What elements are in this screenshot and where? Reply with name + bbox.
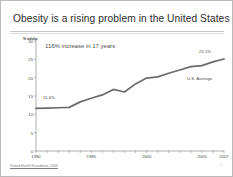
x-axis-tick-label: 2007 bbox=[219, 154, 228, 159]
x-axis-tick-label: 2005 bbox=[197, 154, 206, 159]
series-label: U.S. Average bbox=[187, 76, 212, 81]
y-axis-ticks: 051015202530 bbox=[17, 35, 33, 160]
slide-content: Obesity is a rising problem in the Unite… bbox=[5, 5, 230, 174]
y-axis-tick-label: 10 bbox=[19, 112, 33, 117]
y-axis-tick-label: 15 bbox=[19, 94, 33, 99]
y-axis-tick-label: 25 bbox=[19, 57, 33, 62]
y-axis-tick-label: 5 bbox=[19, 130, 33, 135]
source-link[interactable]: United Health Foundation, 2008 bbox=[10, 164, 58, 168]
x-axis-tick-label: 1995 bbox=[87, 154, 96, 159]
y-axis-tick-label: 0 bbox=[19, 149, 33, 154]
start-value-label: 11.6% bbox=[43, 95, 55, 100]
slide-canvas: Obesity is a rising problem in the Unite… bbox=[0, 0, 233, 177]
y-axis-tick-label: 20 bbox=[19, 75, 33, 80]
page-number: 7 bbox=[220, 164, 222, 168]
y-axis-tick-label: 30 bbox=[19, 39, 33, 44]
end-value-label: 25.1% bbox=[199, 49, 211, 54]
chart-plot-area bbox=[5, 35, 230, 160]
x-axis-tick-label: 2000 bbox=[142, 154, 151, 159]
title-divider bbox=[10, 31, 224, 32]
data-series-line bbox=[36, 59, 224, 109]
increase-annotation: 116% increase in 17 years bbox=[45, 43, 115, 49]
title-divider-shadow bbox=[10, 33, 224, 34]
x-axis-tick-label: 1990 bbox=[31, 154, 40, 159]
page-title: Obesity is a rising problem in the Unite… bbox=[13, 13, 225, 24]
line-chart: % adults 051015202530 199019952000200520… bbox=[5, 35, 230, 160]
